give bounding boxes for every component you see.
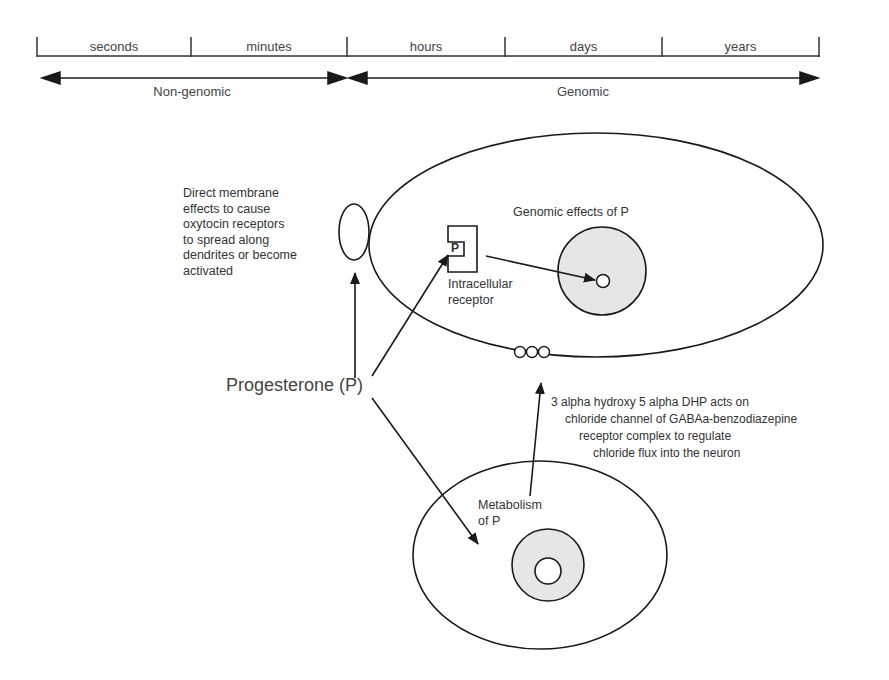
genomic-effects-label: Genomic effects of P [513,205,629,220]
timescale-hours: hours [347,39,505,54]
timescale-minutes: minutes [191,39,347,54]
genomic-arrow [349,72,818,84]
upper-nucleus [558,227,646,315]
dhp-line-4: chloride flux into the neuron [593,446,740,461]
arrow-metabolism-to-channel [530,383,541,496]
arrow-to-metabolism [372,398,478,544]
direct-membrane-label: Direct membrane effects to cause oxytoci… [183,186,297,279]
receptor-p-label: P [451,241,459,256]
arrow-to-receptor [372,255,448,376]
diagram-canvas [0,0,889,680]
membrane-receptor [339,204,369,260]
timescale-years: years [662,39,819,54]
timescale-seconds: seconds [37,39,191,54]
chloride-channel-icon [515,347,550,358]
dhp-line-3: receptor complex to regulate [579,429,731,444]
non-genomic-arrow [42,72,346,84]
range-genomic: Genomic [347,84,819,99]
upper-nucleolus [597,275,610,288]
timescale-days: days [505,39,662,54]
progesterone-label: Progesterone (P) [226,378,363,393]
intracellular-receptor-label: Intracellular receptor [448,277,513,308]
dhp-line-2: chloride channel of GABAa-benzodiazepine [565,412,797,427]
range-non-genomic: Non-genomic [37,84,347,99]
lower-nucleolus [535,558,561,584]
metabolism-label: Metabolism of P [478,498,542,529]
dhp-line-1: 3 alpha hydroxy 5 alpha DHP acts on [551,395,749,410]
